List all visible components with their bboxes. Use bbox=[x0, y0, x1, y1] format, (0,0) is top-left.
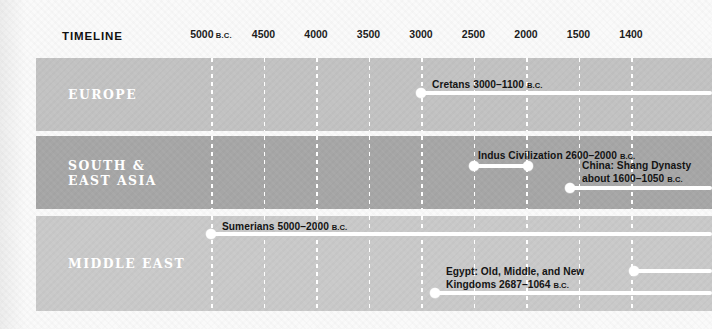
timeline-dot-cretans-start[interactable] bbox=[416, 88, 426, 98]
timeline-bar-indus[interactable] bbox=[474, 164, 529, 167]
timeline-bar-mideast-upper[interactable] bbox=[634, 269, 712, 272]
timeline-dot-indus-start[interactable] bbox=[469, 161, 479, 171]
timeline-label-egypt: Egypt: Old, Middle, and New Kingdoms 268… bbox=[446, 266, 584, 292]
timeline-label-era: B.C. bbox=[332, 223, 347, 232]
timeline-label-era: B.C. bbox=[667, 175, 682, 184]
timeline-label-era: B.C. bbox=[527, 81, 542, 90]
timeline-label-cretans: Cretans 3000–1100 B.C. bbox=[432, 79, 542, 93]
timeline-dot-sumerians-start[interactable] bbox=[206, 229, 216, 239]
timeline-overlay: Cretans 3000–1100 B.C.Indus Civilization… bbox=[0, 0, 712, 329]
timeline-dot-mideast-upper-start[interactable] bbox=[629, 266, 639, 276]
timeline-label-sumerians: Sumerians 5000–2000 B.C. bbox=[222, 221, 347, 235]
timeline-label-era: B.C. bbox=[553, 281, 568, 290]
timeline-dot-shang-start[interactable] bbox=[565, 183, 575, 193]
timeline-infographic: EUROPE SOUTH & EAST ASIA MIDDLE EAST TIM… bbox=[0, 0, 712, 329]
timeline-bar-shang[interactable] bbox=[570, 186, 712, 189]
timeline-dot-egypt-start[interactable] bbox=[430, 288, 440, 298]
timeline-label-shang: China: Shang Dynasty about 1600–1050 B.C… bbox=[582, 160, 691, 186]
